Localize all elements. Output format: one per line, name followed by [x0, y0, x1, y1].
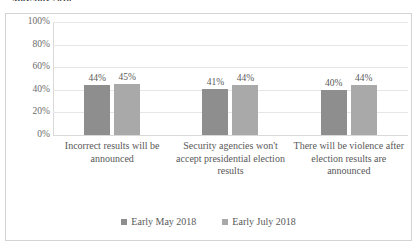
y-axis-tick: 20%: [6, 108, 50, 118]
bar-group: 40% 44%: [290, 22, 408, 135]
bar-rect: [114, 84, 140, 135]
bar-rect: [321, 90, 347, 135]
y-axis-tick: 80%: [6, 40, 50, 50]
bar-rect: [351, 85, 377, 135]
category-label: There will be violence after election re…: [290, 140, 408, 178]
x-axis-categories: Incorrect results will be announced Secu…: [53, 140, 408, 178]
chart-title: May/July 2018: [12, 0, 71, 1]
bar-series-1[interactable]: 41%: [202, 22, 228, 135]
legend-swatch-icon: [222, 219, 228, 225]
legend-label: Early July 2018: [232, 217, 295, 227]
bar-series-2[interactable]: 44%: [232, 22, 258, 135]
bar-rect: [202, 89, 228, 135]
category-label: Incorrect results will be announced: [53, 140, 171, 178]
legend-swatch-icon: [121, 219, 127, 225]
y-axis-tick: 100%: [6, 17, 50, 27]
chart-frame: 100% 80% 60% 40% 20% 0% 44% 45%: [5, 13, 412, 241]
bar-value-label: 40%: [325, 78, 342, 88]
y-axis-tick: 0%: [6, 130, 50, 140]
legend-item-early-july[interactable]: Early July 2018: [222, 217, 295, 227]
bar-rect: [84, 85, 110, 135]
bar-series-1[interactable]: 44%: [84, 22, 110, 135]
bar-series-2[interactable]: 45%: [114, 22, 140, 135]
bar-series-2[interactable]: 44%: [351, 22, 377, 135]
bar-value-label: 44%: [237, 73, 254, 83]
bar-groups: 44% 45% 41% 44%: [53, 22, 408, 135]
bar-value-label: 44%: [355, 73, 372, 83]
bar-value-label: 44%: [88, 73, 105, 83]
legend-item-early-may[interactable]: Early May 2018: [121, 217, 196, 227]
legend-label: Early May 2018: [131, 217, 196, 227]
y-axis: 100% 80% 60% 40% 20% 0%: [6, 22, 50, 135]
category-label: Security agencies won't accept president…: [171, 140, 289, 178]
bar-group: 44% 45%: [53, 22, 171, 135]
bar-group: 41% 44%: [171, 22, 289, 135]
bar-series-1[interactable]: 40%: [321, 22, 347, 135]
bar-value-label: 45%: [118, 72, 135, 82]
bar-value-label: 41%: [207, 77, 224, 87]
y-axis-tick: 60%: [6, 62, 50, 72]
bar-rect: [232, 85, 258, 135]
chart-legend: Early May 2018 Early July 2018: [6, 217, 411, 227]
y-axis-tick: 40%: [6, 85, 50, 95]
